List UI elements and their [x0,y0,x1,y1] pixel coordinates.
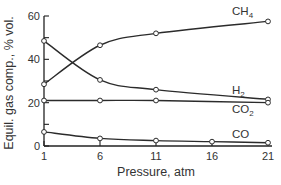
data-point-marker [210,139,215,144]
x-tick-label: 6 [97,150,103,162]
y-tick-label: 0 [34,140,40,152]
chart-canvas: 020406016111621 CH4H2CO2CO Pressure, atm… [0,0,281,185]
data-point-marker [42,130,47,135]
series-label-co: CO [232,128,249,140]
data-point-marker [98,98,103,103]
x-axis-title: Pressure, atm [117,165,195,179]
equilibrium-gas-composition-chart: 020406016111621 CH4H2CO2CO Pressure, atm… [0,0,281,185]
y-tick-label: 60 [28,10,40,22]
curves [42,19,271,145]
data-point-marker [42,82,47,87]
data-point-marker [154,87,159,92]
data-point-marker [42,39,47,44]
data-point-marker [266,100,271,105]
x-tick-label: 11 [150,150,161,162]
data-point-marker [42,98,47,103]
data-point-marker [266,19,271,24]
x-tick-label: 21 [262,150,274,162]
y-tick-label: 40 [28,53,40,65]
data-point-marker [154,98,159,103]
data-point-marker [266,140,271,145]
data-point-marker [98,136,103,141]
data-point-marker [98,78,103,83]
y-axis-title: Equil. gas comp., % vol. [2,16,16,149]
x-tick-label: 1 [41,150,47,162]
x-tick-label: 16 [206,150,218,162]
series-label-co2: CO2 [232,103,254,118]
data-point-marker [154,31,159,36]
series-label-ch4: CH4 [232,5,254,20]
data-point-marker [98,43,103,48]
y-tick-label: 20 [28,97,40,109]
data-point-marker [154,138,159,143]
